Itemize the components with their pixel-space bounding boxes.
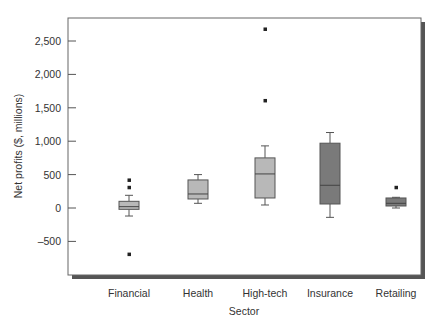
iqr-box [386,198,406,206]
x-axis: FinancialHealthHigh-techInsuranceRetaili… [108,287,417,299]
y-tick-label: 500 [43,169,61,181]
outlier-point [128,186,132,190]
y-tick-label: 0 [55,202,61,214]
x-tick-label: Financial [108,287,150,299]
outlier-point [264,99,268,103]
y-tick-label: 1,500 [35,102,61,114]
y-tick-label: 2,000 [35,68,61,80]
x-tick-label: Insurance [307,287,353,299]
x-tick-label: Health [183,287,214,299]
outlier-point [395,186,399,190]
outlier-point [128,178,132,182]
iqr-box [119,201,139,209]
iqr-box [255,158,275,198]
x-tick-label: Retailing [376,287,417,299]
x-axis-title: Sector [229,305,260,317]
plot-frame [68,18,421,275]
iqr-box [320,143,340,204]
y-tick-label: 2,500 [35,35,61,47]
iqr-box [188,180,208,199]
x-tick-label: High-tech [243,287,288,299]
y-tick-label: –500 [38,235,62,247]
outlier-point [128,253,132,256]
outlier-point [264,27,268,31]
y-tick-label: 1,000 [35,135,61,147]
y-axis-title: Net profits ($, millions) [12,94,24,198]
box-plot-chart: 2,5002,0001,5001,0005000–500 FinancialHe… [0,0,439,329]
